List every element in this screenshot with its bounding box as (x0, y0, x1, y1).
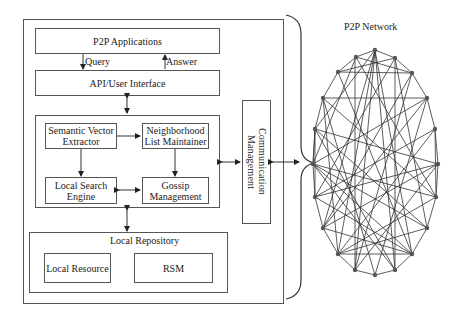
diagram-connectors (0, 0, 465, 321)
network-bracket (286, 15, 314, 299)
p2p-network-graph (313, 50, 438, 275)
